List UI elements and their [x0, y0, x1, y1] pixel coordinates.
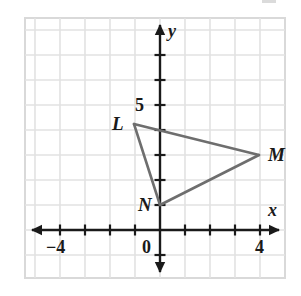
- y-tick-label-5: 5: [135, 96, 144, 114]
- x-tick-label-neg4: −4: [46, 238, 65, 256]
- vertex-label-n: N: [138, 195, 152, 214]
- scan-artifact: [262, 0, 276, 3]
- x-axis-label: x: [268, 201, 277, 219]
- vertex-label-l: L: [112, 114, 124, 133]
- coordinate-plane-figure: LMNyx0−445: [0, 0, 301, 296]
- x-tick-label-4: 4: [255, 238, 264, 256]
- vertex-label-m: M: [268, 145, 285, 164]
- y-axis-label: y: [168, 22, 176, 40]
- origin-label: 0: [142, 238, 151, 256]
